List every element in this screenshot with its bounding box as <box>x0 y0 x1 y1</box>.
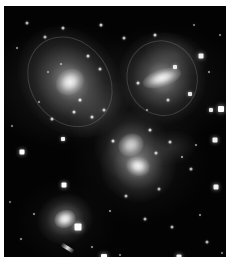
star <box>109 210 111 212</box>
star <box>146 109 148 111</box>
star <box>213 138 218 143</box>
star <box>199 54 204 59</box>
star <box>199 214 201 216</box>
star <box>103 109 106 112</box>
star <box>158 188 161 191</box>
star <box>125 195 128 198</box>
star <box>193 24 195 26</box>
star <box>219 34 221 36</box>
star <box>75 224 82 231</box>
star <box>169 141 172 144</box>
star <box>190 168 193 171</box>
star <box>181 156 183 158</box>
star <box>91 246 93 248</box>
star <box>73 111 76 114</box>
star <box>206 241 209 244</box>
star <box>221 252 223 254</box>
star <box>20 150 25 155</box>
star <box>101 254 107 257</box>
star <box>154 34 157 37</box>
star <box>11 125 13 127</box>
star <box>60 63 62 65</box>
star <box>61 137 65 141</box>
sky-nebulosity-gradient <box>4 6 226 257</box>
star <box>137 82 140 85</box>
star <box>62 27 65 30</box>
star <box>188 92 192 96</box>
star <box>44 36 47 39</box>
star <box>47 71 49 73</box>
star <box>171 226 174 229</box>
star <box>123 37 126 40</box>
star <box>155 152 158 155</box>
star <box>62 183 67 188</box>
star <box>167 99 170 102</box>
star <box>99 68 102 71</box>
star <box>173 65 177 69</box>
star <box>20 238 22 240</box>
star <box>16 47 18 49</box>
sky-plate <box>4 6 226 257</box>
star <box>9 201 11 203</box>
star <box>26 22 29 25</box>
star <box>119 254 121 256</box>
star <box>218 106 224 112</box>
star <box>79 99 82 102</box>
star <box>208 71 210 73</box>
star <box>149 129 152 132</box>
star <box>87 55 90 58</box>
star <box>38 101 40 103</box>
star <box>112 140 115 143</box>
star <box>33 213 35 215</box>
star <box>177 255 182 258</box>
star <box>51 118 54 121</box>
star <box>209 108 213 112</box>
astronomy-image-page <box>0 0 230 270</box>
star <box>195 144 197 146</box>
star <box>100 24 103 27</box>
star <box>214 185 219 190</box>
star <box>91 116 94 119</box>
star <box>144 218 147 221</box>
